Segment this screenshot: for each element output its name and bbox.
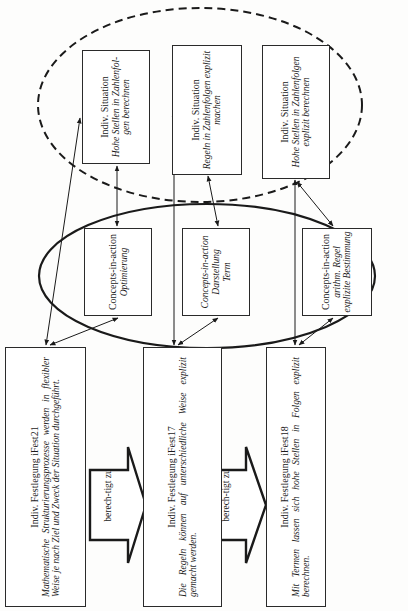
cia-box-3: Concepts-in-action arithm. Regel explizi… [302,228,372,316]
connector-sit3-cia3 [297,182,333,226]
cia-1-title: Concepts-in-action [107,232,119,312]
entitlement-arrow-2-label: berech-tigt zu [221,465,232,525]
cia-3-title: Concepts-in-action [320,231,332,313]
ifest21-body: Mathematische Strukturierungsprozesse we… [40,357,62,597]
cia-2-body: Darstellung Term [211,232,233,312]
situation-1-body: Hohe Stellen in Zahlenfol-gen berechnen [111,55,133,159]
situation-box-3: Indiv. Situation Hohe Stellen in Zahlenf… [262,45,330,179]
festlegung-box-ifest21: Indiv. Festlegung iFest21 Mathematische … [5,347,86,607]
ifest18-body: Mit Termen lassen sich hohe Stellen in F… [291,357,313,597]
situation-1-title: Indiv. Situation [99,55,111,159]
cia-box-2: Concepts-in-action Darstellung Term [182,228,250,316]
diagram-canvas: Indiv. Situation Hohe Stellen in Zahlenf… [0,0,408,611]
entitlement-arrow-1-label: berech-tigt zu [103,465,114,525]
situation-3-body: Hohe Stellen in Zahlenfolgen explizit be… [291,51,313,173]
situation-2-title: Indiv. Situation [190,50,202,170]
situation-3-title: Indiv. Situation [279,51,291,173]
cia-3-body: arithm. Regel explizite Bestimmung [332,231,354,313]
entitlement-arrow-1 [90,447,146,563]
situation-box-2: Indiv. Situation Regeln in Zahlenfolgen … [172,45,242,175]
situation-box-1: Indiv. Situation Hohe Stellen in Zahlenf… [82,50,150,164]
situation-2-body: Regeln in Zahlenfolgen explizit machen [202,50,224,170]
connector-ifest18-cia3 [299,318,333,345]
festlegung-box-ifest18: Indiv. Festlegung iFest18 Mit Termen las… [266,347,326,607]
ifest17-body: Die Regeln können auf unterschiedliche W… [177,357,199,597]
connector-ifest17-cia2 [178,318,218,345]
cia-2-title: Concepts-in-action [200,232,211,312]
connector-ifest21-cia1 [50,318,118,345]
connector-ifest21-sit1 [46,118,80,345]
festlegung-box-ifest17: Indiv. Festlegung iFest17 Die Regeln kön… [143,347,222,607]
connector-sit2-cia2 [208,176,218,226]
cia-box-1: Concepts-in-action Optimierung [84,228,152,316]
ifest21-title: Indiv. Festlegung iFest21 [29,357,41,597]
cia-1-body: Optimierung [118,232,129,312]
ifest18-title: Indiv. Festlegung iFest18 [279,357,291,597]
ifest17-title: Indiv. Festlegung iFest17 [166,357,178,597]
